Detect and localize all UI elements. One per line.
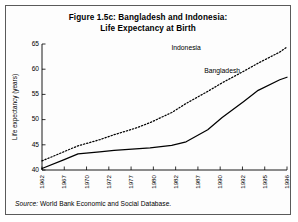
life-expectancy-line-chart: 404550556065 196219671970197219771980198…	[6, 36, 292, 191]
x-tick-label: 1995	[261, 174, 268, 188]
x-tick-label: 1987	[194, 174, 201, 188]
x-tick-label: 1977	[127, 174, 134, 188]
x-tick-label: 1962	[38, 174, 45, 188]
y-axis-title-text: Life expectancy (years)	[11, 74, 19, 140]
series-line-indonesia	[42, 47, 287, 161]
y-tick-label: 40	[32, 166, 40, 173]
x-axis: 1962196719701972197719801982198719901992…	[38, 167, 290, 189]
x-tick-label: 1970	[83, 174, 90, 188]
x-tick-label: 1967	[60, 174, 67, 188]
series-line-bangladesh	[42, 77, 287, 168]
figure-title: Figure 1.5c: Bangladesh and Indonesia: L…	[6, 13, 290, 34]
y-axis-title: Life expectancy (years)	[11, 74, 19, 140]
x-tick-label: 1982	[172, 174, 179, 188]
series-label-bangladesh: Bangladesh	[204, 67, 240, 75]
y-tick-label: 65	[32, 40, 40, 47]
source-note: Source: World Bank Economic and Social D…	[15, 200, 171, 207]
source-label: Source:	[15, 200, 38, 207]
x-tick-label: 1972	[105, 174, 112, 188]
y-axis: 404550556065	[32, 40, 46, 173]
figure-title-line2: Life Expectancy at Birth	[6, 24, 290, 35]
x-tick-label: 1980	[150, 174, 157, 188]
figure-title-line1: Figure 1.5c: Bangladesh and Indonesia:	[69, 13, 227, 22]
figure-frame: Figure 1.5c: Bangladesh and Indonesia: L…	[5, 5, 291, 215]
y-tick-label: 60	[32, 65, 40, 72]
y-tick-label: 45	[32, 141, 40, 148]
x-tick-label: 1996	[283, 174, 290, 188]
series-labels-group: BangladeshIndonesia	[171, 44, 240, 75]
y-tick-label: 55	[32, 90, 40, 97]
y-tick-label: 50	[32, 115, 40, 122]
series-label-indonesia: Indonesia	[171, 44, 201, 51]
data-series-group	[42, 47, 287, 168]
source-text: World Bank Economic and Social Database.	[40, 200, 171, 207]
chart-plot-area: 404550556065 196219671970197219771980198…	[6, 36, 292, 191]
x-tick-label: 1992	[239, 174, 246, 188]
x-tick-label: 1990	[216, 174, 223, 188]
